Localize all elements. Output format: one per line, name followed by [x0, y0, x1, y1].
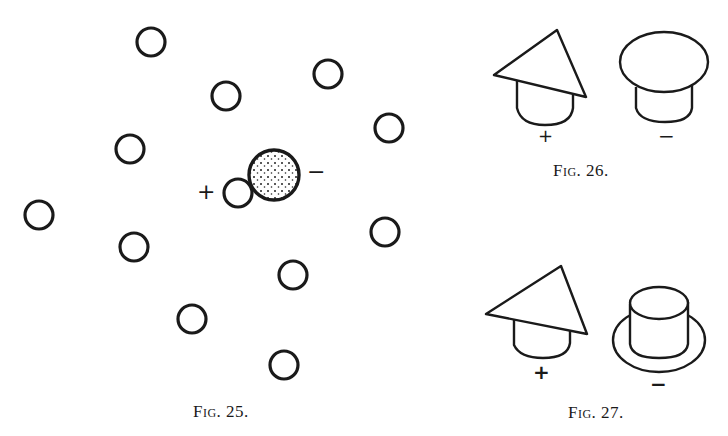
fig26-plus-shape [494, 30, 586, 125]
open-circle [279, 261, 307, 289]
open-circle [116, 135, 144, 163]
open-circle [137, 28, 165, 56]
open-circle [25, 201, 53, 229]
open-circle [120, 233, 148, 261]
diagram-canvas [0, 0, 728, 436]
fig26-minus-shape [620, 32, 708, 122]
open-circle [314, 60, 342, 88]
fig25-stippled-minus-circle [249, 150, 299, 200]
open-circle [375, 114, 403, 142]
fig26-caption: Fig. 26. [553, 161, 609, 181]
open-circle [212, 82, 240, 110]
fig27-minus-shape [613, 287, 705, 372]
fig25-small-plus-circle [224, 179, 252, 207]
fig26-minus-label: − [658, 126, 675, 146]
fig27-plus-label: + [533, 362, 550, 382]
open-circle [178, 305, 206, 333]
open-circle [270, 351, 298, 379]
fig25-caption: Fig. 25. [193, 402, 249, 422]
open-circle [371, 218, 399, 246]
fig26-plus-label: + [538, 127, 553, 145]
fig27-plus-shape [486, 266, 587, 358]
fig25-minus-label: − [307, 161, 325, 183]
fig27-caption: Fig. 27. [568, 403, 624, 423]
fig25-plus-label: + [197, 181, 215, 203]
fig27-minus-label: − [650, 374, 667, 394]
